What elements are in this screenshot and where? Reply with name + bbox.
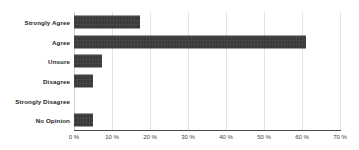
gridline-60pct bbox=[302, 12, 303, 130]
category-label: Disagree bbox=[0, 77, 70, 84]
x-tick-label: 70 % bbox=[333, 133, 347, 141]
gridline-10pct bbox=[112, 12, 113, 130]
gridline-40pct bbox=[226, 12, 227, 130]
gridline-50pct bbox=[264, 12, 265, 130]
x-tick-label: 10 % bbox=[105, 133, 119, 141]
category-label: Unsure bbox=[0, 58, 70, 65]
gridline-20pct bbox=[150, 12, 151, 130]
y-axis-category-labels: Strongly AgreeAgreeUnsureDisagreeStrongl… bbox=[0, 12, 73, 130]
category-label: Strongly Agree bbox=[0, 18, 70, 25]
x-tick-label: 40 % bbox=[219, 133, 233, 141]
gridline-70pct bbox=[340, 12, 341, 130]
gridline-0pct bbox=[74, 12, 75, 130]
category-label: Agree bbox=[0, 38, 70, 45]
category-label: Strongly Disagree bbox=[0, 97, 70, 104]
x-tick-label: 20 % bbox=[143, 133, 157, 141]
x-axis-line bbox=[74, 130, 341, 131]
x-tick-label: 30 % bbox=[181, 133, 195, 141]
category-label: No Opinion bbox=[0, 117, 70, 124]
gridline-30pct bbox=[188, 12, 189, 130]
plot-area bbox=[74, 12, 340, 130]
x-tick-label: 60 % bbox=[295, 133, 309, 141]
bar bbox=[74, 114, 93, 127]
horizontal-bar-chart: Strongly AgreeAgreeUnsureDisagreeStrongl… bbox=[0, 0, 359, 150]
bar bbox=[74, 74, 93, 87]
x-axis-tick-labels: 0 %10 %20 %30 %40 %50 %60 %70 % bbox=[74, 133, 340, 147]
bar bbox=[74, 35, 306, 48]
x-tick-label: 50 % bbox=[257, 133, 271, 141]
bar bbox=[74, 15, 140, 28]
x-tick-label: 0 % bbox=[69, 133, 79, 141]
bar bbox=[74, 55, 102, 68]
